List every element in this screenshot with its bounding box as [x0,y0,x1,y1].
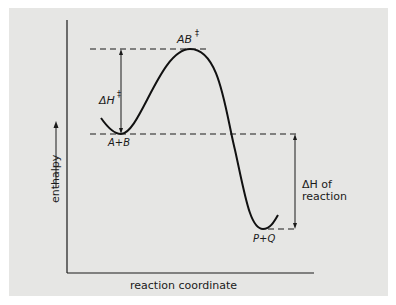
transition-state-mark: ‡ [195,29,199,38]
transition-state-label: AB [176,33,192,46]
y-axis-label: enthalpy [49,154,62,203]
reactants-label: A+B [107,137,130,148]
enthalpy-arrow-icon [54,121,59,128]
activation-enthalpy-label: ΔH [98,94,115,107]
arrow-up-icon [293,134,297,140]
arrow-down-icon [293,223,297,229]
products-label: P+Q [253,233,275,244]
x-axis-label: reaction coordinate [130,279,237,292]
arrow-up-icon [119,49,123,55]
reaction-enthalpy-label-line2: reaction [302,190,347,203]
activation-enthalpy-mark: ‡ [117,90,121,99]
energy-diagram: enthalpy reaction coordinate AB ‡ ΔH ‡ A… [0,0,396,305]
